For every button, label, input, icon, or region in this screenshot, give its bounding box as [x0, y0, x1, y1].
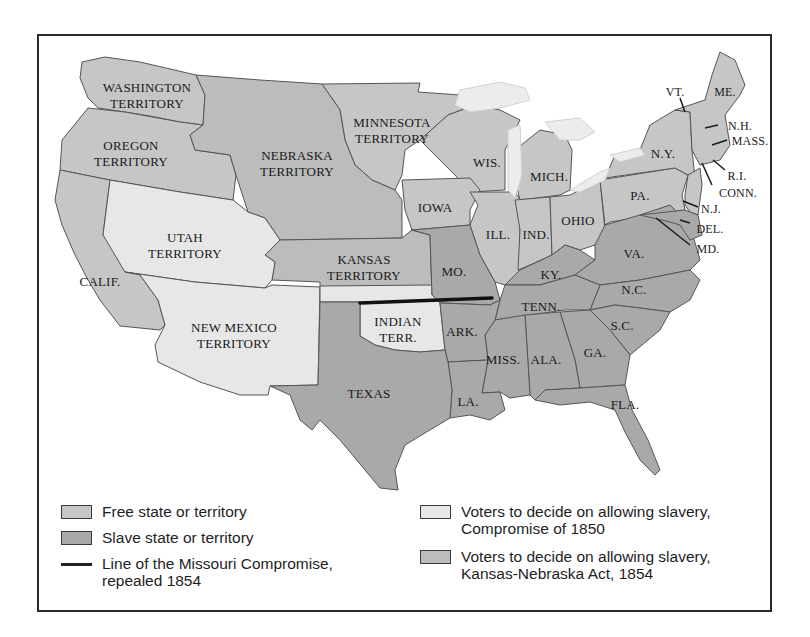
legend-label: Free state or territory — [102, 503, 247, 520]
region-florida — [535, 385, 660, 475]
label-washington: WASHINGTON — [103, 80, 192, 95]
label-kansas-2: TERRITORY — [327, 268, 401, 283]
label-utah-2: TERRITORY — [148, 246, 222, 261]
legend-label-2: repealed 1854 — [102, 572, 201, 589]
legend-item-compromise-1850: Voters to decide on allowing slavery, Co… — [420, 503, 711, 537]
label-va: VA. — [624, 246, 645, 261]
slave-swatch-icon — [61, 531, 92, 545]
label-new-mexico-2: TERRITORY — [197, 336, 271, 351]
legend-label: Slave state or territory — [102, 529, 254, 546]
label-ill: ILL. — [486, 227, 510, 242]
region-new-york — [605, 110, 695, 178]
label-mass: MASS. — [732, 134, 769, 148]
label-nebraska: NEBRASKA — [261, 148, 333, 163]
label-la: LA. — [457, 394, 478, 409]
legend-item-kansas-nebraska: Voters to decide on allowing slavery, Ka… — [420, 548, 711, 582]
label-nh: N.H. — [728, 119, 752, 133]
label-miss: MISS. — [486, 352, 521, 367]
label-ind: IND. — [522, 227, 549, 242]
free-swatch-icon — [61, 505, 92, 519]
label-ri: R.I. — [728, 169, 747, 183]
legend-item-slave: Slave state or territory — [61, 529, 254, 546]
label-nj: N.J. — [701, 202, 721, 216]
label-del: DEL. — [696, 222, 723, 236]
legend-item-free: Free state or territory — [61, 503, 247, 520]
label-tenn: TENN. — [522, 299, 561, 314]
region-new-jersey — [685, 168, 702, 215]
legend-label: Voters to decide on allowing slavery, — [461, 548, 711, 565]
label-calif: CALIF. — [80, 274, 121, 289]
label-minnesota: MINNESOTA — [353, 115, 431, 130]
label-me: ME. — [714, 85, 736, 99]
label-minnesota-2: TERRITORY — [355, 131, 429, 146]
label-ark: ARK. — [446, 324, 478, 339]
label-md: MD. — [697, 242, 720, 256]
label-oregon-2: TERRITORY — [94, 154, 168, 169]
label-indian: INDIAN — [374, 314, 422, 329]
label-kansas: KANSAS — [337, 252, 390, 267]
label-texas: TEXAS — [348, 386, 391, 401]
label-wis: WIS. — [473, 155, 501, 170]
label-nc: N.C. — [621, 282, 646, 297]
label-ny: N.Y. — [651, 146, 675, 161]
label-new-mexico: NEW MEXICO — [191, 320, 277, 335]
label-conn: CONN. — [719, 186, 757, 200]
label-ga: GA. — [584, 345, 607, 360]
label-sc: S.C. — [610, 318, 633, 333]
label-mo: MO. — [442, 264, 467, 279]
legend-label: Voters to decide on allowing slavery, — [461, 503, 711, 520]
compromise-1850-swatch-icon — [420, 505, 451, 519]
label-ohio: OHIO — [561, 213, 594, 228]
label-fla: FLA. — [611, 397, 640, 412]
line-swatch-icon — [61, 563, 92, 566]
label-vt: VT. — [666, 85, 685, 99]
label-utah: UTAH — [167, 230, 203, 245]
label-mich: MICH. — [530, 169, 568, 184]
label-ky: KY. — [541, 267, 562, 282]
legend-item-missouri-line: Line of the Missouri Compromise, repeale… — [61, 555, 333, 589]
legend-label-2: Kansas-Nebraska Act, 1854 — [461, 565, 653, 582]
label-washington-2: TERRITORY — [110, 96, 184, 111]
label-indian-2: TERR. — [379, 330, 416, 345]
label-oregon: OREGON — [103, 138, 159, 153]
legend-label-2: Compromise of 1850 — [461, 520, 605, 537]
label-ala: ALA. — [531, 352, 562, 367]
legend-label: Line of the Missouri Compromise, — [102, 555, 333, 572]
label-pa: PA. — [630, 188, 649, 203]
kansas-nebraska-swatch-icon — [420, 550, 451, 564]
label-iowa: IOWA — [418, 200, 453, 215]
label-nebraska-2: TERRITORY — [260, 164, 334, 179]
